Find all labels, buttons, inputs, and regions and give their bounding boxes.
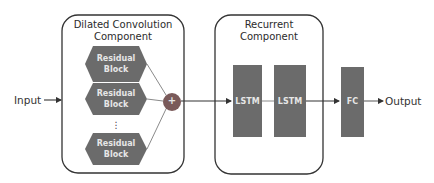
dilated-title-line2: Component (62, 31, 184, 43)
residual-block-1-line2: Block (85, 64, 147, 75)
diagram-canvas: Dilated Convolution Component Recurrent … (0, 0, 434, 183)
residual-block-3: Residual Block (85, 138, 147, 160)
lstm-layer-1-label: LSTM (233, 96, 262, 107)
residual-block-3-line2: Block (85, 149, 147, 160)
input-label: Input (14, 94, 44, 106)
residual-block-1: Residual Block (85, 53, 147, 75)
sum-symbol: + (163, 95, 181, 107)
recurrent-component-title: Recurrent Component (215, 19, 323, 43)
residual-block-3-line1: Residual (85, 138, 147, 149)
dilated-convolution-title: Dilated Convolution Component (62, 19, 184, 43)
recurrent-title-line1: Recurrent (215, 19, 323, 31)
residual-block-2-line2: Block (85, 99, 147, 110)
output-label: Output (385, 95, 430, 107)
residual-block-2: Residual Block (85, 88, 147, 110)
residual-block-1-line1: Residual (85, 53, 147, 64)
dilated-title-line1: Dilated Convolution (62, 19, 184, 31)
vertical-ellipsis: ⋮ (106, 119, 126, 131)
lstm-layer-2-label: LSTM (274, 96, 306, 107)
fc-layer-label: FC (341, 96, 364, 107)
recurrent-title-line2: Component (215, 31, 323, 43)
residual-block-2-line1: Residual (85, 88, 147, 99)
